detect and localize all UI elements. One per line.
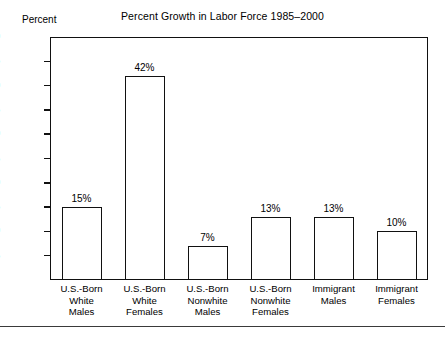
x-axis-category-label: U.S.-BornNonwhiteMales — [176, 283, 239, 318]
bars-layer: 15%42%7%13%13%10% — [50, 37, 428, 280]
x-axis-category-label: ImmigrantMales — [302, 283, 365, 306]
x-axis-category-line: Immigrant — [302, 283, 365, 295]
x-axis-category-line: White — [113, 295, 176, 307]
chart-title: Percent Growth in Labor Force 1985–2000 — [0, 10, 445, 22]
x-axis-category-label: U.S.-BornWhiteMales — [50, 283, 113, 318]
bar-value-label: 15% — [48, 193, 116, 204]
x-axis-category-line: U.S.-Born — [239, 283, 302, 295]
bar[interactable] — [251, 217, 291, 280]
bar-group[interactable]: 13% — [314, 37, 354, 280]
bar[interactable] — [377, 231, 417, 280]
bar[interactable] — [125, 76, 165, 280]
x-axis-category-line: Males — [50, 306, 113, 318]
bar-chart-figure: Percent Growth in Labor Force 1985–2000 … — [0, 0, 445, 337]
footer-divider — [0, 326, 445, 327]
bar-group[interactable]: 10% — [377, 37, 417, 280]
x-axis-category-line: U.S.-Born — [113, 283, 176, 295]
x-axis-category-label: ImmigrantFemales — [365, 283, 428, 306]
bar-value-label: 13% — [300, 203, 368, 214]
x-axis-category-line: Nonwhite — [239, 295, 302, 307]
x-axis-category-line: Females — [113, 306, 176, 318]
x-axis-category-line: U.S.-Born — [50, 283, 113, 295]
y-axis-title: Percent — [22, 14, 56, 25]
bar[interactable] — [188, 246, 228, 280]
x-axis-category-line: Females — [365, 295, 428, 307]
x-axis-category-line: Immigrant — [365, 283, 428, 295]
bar[interactable] — [314, 217, 354, 280]
bar-value-label: 42% — [111, 62, 179, 73]
bar-group[interactable]: 7% — [188, 37, 228, 280]
bar-group[interactable]: 15% — [62, 37, 102, 280]
x-axis-category-line: White — [50, 295, 113, 307]
x-axis-category-line: Females — [239, 306, 302, 318]
x-axis-category-line: U.S.-Born — [176, 283, 239, 295]
x-axis-category-label: U.S.-BornNonwhiteFemales — [239, 283, 302, 318]
bar-value-label: 7% — [174, 232, 242, 243]
bar-group[interactable]: 42% — [125, 37, 165, 280]
bar-value-label: 10% — [363, 217, 431, 228]
x-axis-category-label: U.S.-BornWhiteFemales — [113, 283, 176, 318]
bar[interactable] — [62, 207, 102, 280]
x-axis-category-line: Males — [176, 306, 239, 318]
bar-group[interactable]: 13% — [251, 37, 291, 280]
bar-value-label: 13% — [237, 203, 305, 214]
x-axis-category-line: Males — [302, 295, 365, 307]
x-axis-category-line: Nonwhite — [176, 295, 239, 307]
